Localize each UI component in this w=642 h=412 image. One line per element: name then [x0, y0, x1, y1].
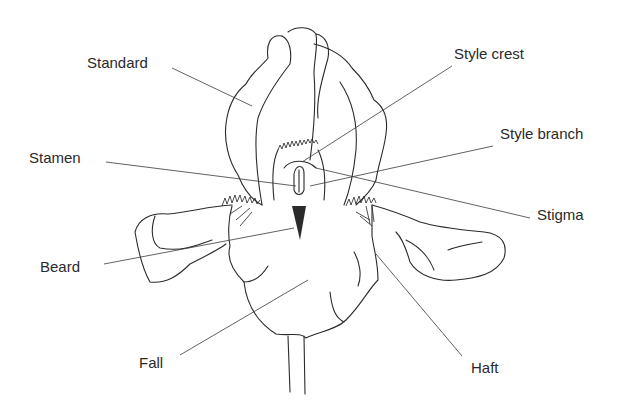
- fall-petal-right-fold: [448, 242, 482, 250]
- fall-petal-left: [135, 205, 232, 282]
- iris-anatomy-diagram: Standard Stamen Beard Fall Style crest S…: [0, 0, 642, 412]
- label-beard: Beard: [40, 259, 80, 274]
- fall-vein-left: [244, 266, 268, 282]
- stem: [288, 336, 305, 394]
- leader-haft: [376, 254, 462, 356]
- beard-shape: [292, 206, 306, 240]
- label-haft: Haft: [471, 360, 499, 375]
- fall-petal-left-fold: [152, 216, 212, 249]
- label-style-branch: Style branch: [500, 126, 583, 141]
- leader-stamen: [106, 162, 296, 186]
- fall-vein-right: [354, 252, 360, 286]
- leader-style-crest: [302, 66, 452, 162]
- label-standard: Standard: [87, 55, 148, 70]
- label-fall: Fall: [139, 355, 163, 370]
- fall-petal-center: [229, 205, 378, 338]
- beard-hairs-left: [222, 195, 260, 226]
- label-stamen: Stamen: [29, 150, 81, 165]
- label-style-crest: Style crest: [454, 46, 524, 61]
- leader-style-branch: [310, 146, 493, 186]
- fall-petal-right-curl: [406, 240, 434, 270]
- leader-beard: [104, 228, 294, 264]
- fall-vein-lower: [330, 292, 344, 322]
- standard-petal-right-inner: [340, 82, 356, 205]
- leader-standard: [172, 68, 252, 106]
- label-stigma: Stigma: [537, 207, 584, 222]
- style-arm-left: [273, 150, 278, 200]
- fall-petal-right: [372, 205, 505, 280]
- standard-petal-left: [226, 36, 283, 205]
- style-arm-right: [318, 150, 325, 200]
